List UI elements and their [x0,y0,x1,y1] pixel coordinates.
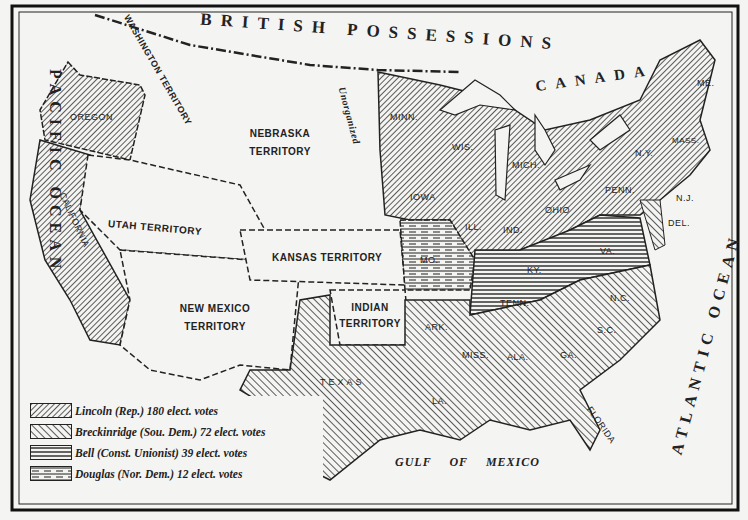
state-del: DEL. [668,218,690,228]
legend-item-douglas: Douglas (Nor. Dem.) 12 elect. votes [30,463,320,484]
legend-item-breckinridge: Breckinridge (Sou. Dem.) 72 elect. votes [30,421,320,442]
state-mich: MICH. [512,160,540,170]
state-texas: TEXAS [320,377,365,387]
state-ala: ALA. [507,352,529,362]
legend-item-bell: Bell (Const. Unionist) 39 elect. votes [30,442,320,463]
state-ohio: OHIO [545,205,570,215]
state-nc: N.C. [610,293,630,303]
legend-label: Lincoln (Rep.) 180 elect. votes [75,405,218,417]
state-ind: IND. [503,225,523,235]
legend-label: Douglas (Nor. Dem.) 12 elect. votes [75,468,242,480]
state-va: VA. [600,246,615,256]
horizontal-lines-swatch-icon [30,445,72,460]
dashed-lines-swatch-icon [30,466,72,481]
territory-indian: INDIAN TERRITORY [335,300,405,332]
hatch-left-swatch-icon [30,424,72,439]
state-ark: ARK. [425,322,448,332]
state-nj: N.J. [676,193,694,203]
territory-kansas: KANSAS TERRITORY [272,252,382,263]
state-mo: MO. [420,255,439,265]
legend-item-lincoln: Lincoln (Rep.) 180 elect. votes [30,400,320,421]
legend-label: Breckinridge (Sou. Dem.) 72 elect. votes [75,426,265,438]
state-miss: MISS. [462,350,489,360]
legend-label: Bell (Const. Unionist) 39 elect. votes [75,447,247,459]
state-ga: GA. [560,350,577,360]
state-oregon: OREGON [70,112,113,122]
hatch-right-swatch-icon [30,403,72,418]
state-sc: S.C. [597,325,617,335]
state-minn: MINN. [390,112,418,122]
pacific-ocean-label: PACIFIC OCEAN [46,69,64,289]
state-ky: KY. [527,265,542,275]
state-ny: N.Y. [635,148,653,158]
state-wis: WIS. [452,142,474,152]
territory-nebraska: NEBRASKA TERRITORY [230,125,330,161]
state-mass: MASS. [672,136,699,145]
state-ill: ILL. [465,222,482,232]
state-me: ME. [697,78,715,88]
state-iowa: IOWA [410,192,436,202]
state-penn: PENN. [605,185,635,195]
gulf-of-mexico-label: GULF OF MEXICO [395,455,540,470]
territory-new-mexico: NEW MEXICO TERRITORY [170,300,260,336]
legend: Lincoln (Rep.) 180 elect. votes Breckinr… [30,400,320,484]
state-tenn: TENN. [500,298,530,308]
state-la: LA. [432,396,447,406]
